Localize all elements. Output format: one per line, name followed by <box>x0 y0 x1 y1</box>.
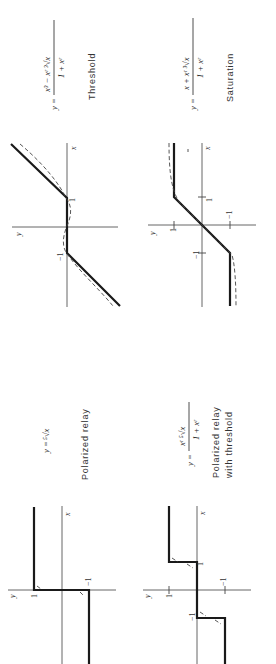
tick-label: 1 <box>196 562 205 566</box>
x-axis-label: x <box>63 512 72 517</box>
caption-saturation: Saturation <box>225 53 235 102</box>
tick-label: 1 <box>30 594 39 598</box>
polarized-relay-formula: y = ⁵√x Polarized relay <box>41 408 90 480</box>
y-axis-label: y <box>148 231 157 236</box>
formula-numerator: x + xʳ ³√x <box>181 57 191 91</box>
threshold-characteristic <box>11 144 120 306</box>
tick-label: −1 <box>192 250 201 259</box>
formula-denominator: 1 + xʳ <box>56 57 66 78</box>
svg-text:y =: y = <box>41 441 51 454</box>
caption-relay-threshold-line2: with threshold <box>224 411 234 479</box>
saturation-plot: x y 1 1 −1 −1 <box>148 143 256 307</box>
tick-label: 1 <box>169 228 178 232</box>
caption-relay-threshold-line1: Polarized relay <box>211 406 221 478</box>
polarized-relay-threshold-formula: y = xʳ ⁵√x 1 + xʳ Polarized relay with t… <box>177 402 234 479</box>
x-axis-label: x <box>203 146 212 151</box>
caption-polarized-relay: Polarized relay <box>80 408 90 480</box>
svg-text:y =: y = <box>185 454 195 467</box>
svg-text:y =: y = <box>49 98 59 111</box>
tick-label: 1 <box>165 594 174 598</box>
formula-numerator: x³ − xʳ ³√x <box>42 57 52 93</box>
polarized-relay-characteristic <box>34 507 89 664</box>
tick-label: −1 <box>225 210 234 219</box>
formula-denominator: 1 + xʳ <box>195 57 205 78</box>
tick-label: −1 <box>56 252 65 261</box>
formula-expression: ⁵√x <box>41 428 51 440</box>
polarized-relay-threshold-plot: x y 1 1 −1 −1 <box>143 506 251 664</box>
figure-canvas: x y 1 −1 y = x³ − xʳ ³√x 1 + xʳ Threshol… <box>0 0 276 664</box>
y-axis-label: y <box>8 594 17 599</box>
formula-denominator: 1 + xʳ <box>191 419 201 440</box>
threshold-plot: x y 1 −1 <box>11 143 120 307</box>
formula-numerator: xʳ ⁵√x <box>177 427 187 447</box>
x-axis-label: x <box>69 146 78 151</box>
tick-label: −1 <box>84 577 93 586</box>
polarized-relay-plot: x y 1 −1 <box>8 506 116 664</box>
tick-label: −1 <box>188 612 197 621</box>
y-axis-label: y <box>14 232 23 237</box>
x-axis-label: x <box>198 511 207 516</box>
y-axis-label: y <box>143 594 152 599</box>
tick-label: −1 <box>219 577 228 586</box>
threshold-formula: y = x³ − xʳ ³√x 1 + xʳ Threshold <box>42 20 97 111</box>
svg-text:y =: y = <box>188 98 198 111</box>
tick-label: 1 <box>68 198 77 202</box>
caption-threshold: Threshold <box>87 53 97 100</box>
saturation-formula: y = x + xʳ ³√x 1 + xʳ Saturation <box>181 18 235 111</box>
tick-label: 1 <box>205 198 214 202</box>
